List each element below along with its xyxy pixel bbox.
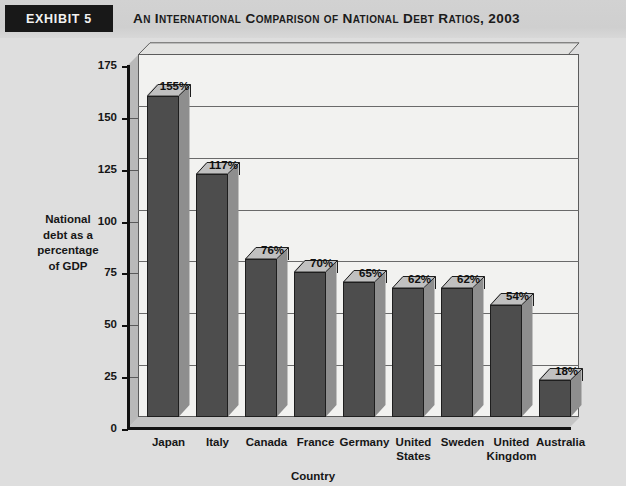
bar-japan[interactable] <box>147 84 191 418</box>
bar-value-label: 62% <box>447 273 491 285</box>
bar-side-face <box>424 276 435 417</box>
y-axis-tick <box>122 118 128 120</box>
bar-front-face <box>539 380 571 417</box>
y-axis-tick-label: 100 <box>83 215 117 227</box>
bar-side-face <box>179 84 190 418</box>
bar-sweden[interactable] <box>441 276 485 417</box>
y-axis-tick-label: 150 <box>83 111 117 123</box>
bar-front-face <box>392 288 424 417</box>
bar-france[interactable] <box>294 260 338 417</box>
plot-area: 155%117%76%70%65%62%62%54%18% <box>127 54 580 429</box>
y-axis-title-line: percentage <box>26 243 110 259</box>
bar-canada[interactable] <box>245 247 289 417</box>
bar-value-label: 70% <box>300 257 344 269</box>
bar-united-states[interactable] <box>392 276 436 417</box>
bar-side-face <box>522 293 533 417</box>
y-axis-tick-label: 175 <box>83 59 117 71</box>
exhibit-title: An International Comparison of National … <box>133 5 520 32</box>
bar-side-face <box>326 260 337 417</box>
bar-front-face <box>294 272 326 417</box>
y-axis-tick-label: 25 <box>83 370 117 382</box>
y-axis-tick-label: 50 <box>83 318 117 330</box>
bar-front-face <box>147 96 179 418</box>
bar-value-label: 18% <box>545 365 589 377</box>
y-axis-tick <box>122 66 128 68</box>
bar-side-face <box>473 276 484 417</box>
exhibit-tag: Exhibit 5 <box>5 5 113 32</box>
y-axis-tick-label: 0 <box>83 422 117 434</box>
y-axis-tick <box>122 377 128 379</box>
y-axis-tick <box>122 273 128 275</box>
bar-value-label: 54% <box>496 290 540 302</box>
x-axis-label-line: States <box>383 449 445 463</box>
y-axis-tick <box>122 222 128 224</box>
bar-germany[interactable] <box>343 270 387 417</box>
bar-front-face <box>343 282 375 417</box>
x-axis-label-australia: Australia <box>530 435 592 449</box>
x-axis-line <box>127 427 571 430</box>
bar-value-label: 76% <box>251 244 295 256</box>
x-axis-label-line: Kingdom <box>481 449 543 463</box>
bar-value-label: 62% <box>398 273 442 285</box>
bar-united-kingdom[interactable] <box>490 293 534 417</box>
y-axis-tick <box>122 325 128 327</box>
y-axis-tick-label: 125 <box>83 163 117 175</box>
y-axis-tick-label: 75 <box>83 266 117 278</box>
y-axis-title-line: debt as a <box>26 228 110 244</box>
exhibit-header: Exhibit 5 An International Comparison of… <box>0 0 626 38</box>
bar-front-face <box>490 305 522 417</box>
bar-value-label: 117% <box>202 159 246 171</box>
y-axis-tick <box>122 429 128 431</box>
bar-chart-figure: Nationaldebt as apercentageof GDP 025507… <box>0 38 626 486</box>
bar-value-label: 65% <box>349 267 393 279</box>
bar-side-face <box>228 162 239 417</box>
x-axis-label-line: Australia <box>530 435 592 449</box>
bar-italy[interactable] <box>196 162 240 417</box>
bar-side-face <box>277 247 288 417</box>
gridline <box>138 106 579 107</box>
x-axis-title: Country <box>0 470 626 482</box>
bar-value-label: 155% <box>153 80 197 92</box>
y-axis-tick <box>122 170 128 172</box>
bar-front-face <box>441 288 473 417</box>
bar-side-face <box>375 270 386 417</box>
bar-front-face <box>245 259 277 417</box>
bar-front-face <box>196 174 228 417</box>
